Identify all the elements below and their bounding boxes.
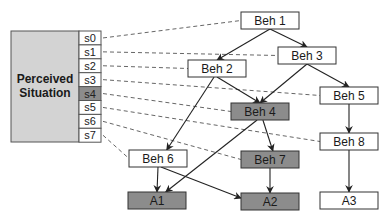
- node-beh8: Beh 8: [320, 133, 378, 150]
- edge-beh2-beh6: [167, 77, 214, 150]
- node-beh4: Beh 4: [231, 103, 289, 120]
- edge-beh2-beh4: [217, 77, 260, 103]
- node-label-beh2: Beh 2: [201, 62, 233, 76]
- state-label-s7: s7: [84, 129, 96, 141]
- dashed-link-s7: [103, 135, 129, 158]
- node-beh3: Beh 3: [278, 47, 336, 64]
- node-a2: A2: [241, 193, 299, 210]
- state-label-s5: s5: [84, 101, 96, 113]
- dashed-link-s1: [103, 52, 278, 56]
- dashed-link-s0: [103, 21, 241, 38]
- node-beh7: Beh 7: [241, 151, 299, 168]
- edge-beh1-beh2: [217, 29, 270, 60]
- edge-beh3-beh4: [260, 64, 307, 103]
- state-label-s0: s0: [84, 32, 96, 44]
- state-label-s6: s6: [84, 115, 96, 127]
- node-a1: A1: [128, 192, 186, 209]
- behavior-diagram: Perceived Situation s0s1s2s3s4s5s6s7 Beh…: [0, 0, 386, 217]
- node-label-beh4: Beh 4: [244, 105, 276, 119]
- node-label-beh8: Beh 8: [333, 135, 365, 149]
- node-label-a2: A2: [263, 195, 278, 209]
- edge-beh4-beh7: [263, 120, 273, 151]
- edge-beh1-beh3: [270, 29, 307, 47]
- node-beh2: Beh 2: [188, 60, 246, 77]
- node-label-beh3: Beh 3: [291, 49, 323, 63]
- dashed-link-s3: [103, 80, 320, 96]
- node-label-beh6: Beh 6: [142, 152, 174, 166]
- perceived-situation-label-2: Situation: [19, 86, 70, 100]
- node-label-beh7: Beh 7: [254, 153, 286, 167]
- node-label-a1: A1: [150, 194, 165, 208]
- node-label-beh1: Beh 1: [254, 14, 286, 28]
- node-beh6: Beh 6: [129, 150, 187, 167]
- edge-beh3-beh5: [307, 64, 349, 87]
- node-label-a3: A3: [342, 194, 357, 208]
- perceived-situation-label: Perceived: [17, 72, 74, 86]
- state-label-s3: s3: [84, 74, 96, 86]
- state-label-s1: s1: [84, 46, 96, 58]
- node-a3: A3: [320, 192, 378, 209]
- node-beh1: Beh 1: [241, 12, 299, 29]
- dashed-link-s2: [103, 66, 188, 69]
- node-beh5: Beh 5: [320, 87, 378, 104]
- node-label-beh5: Beh 5: [333, 89, 365, 103]
- edge-beh6-a1: [157, 167, 158, 192]
- state-label-s4: s4: [84, 88, 96, 100]
- dashed-link-s4: [103, 94, 231, 112]
- state-label-s2: s2: [84, 60, 96, 72]
